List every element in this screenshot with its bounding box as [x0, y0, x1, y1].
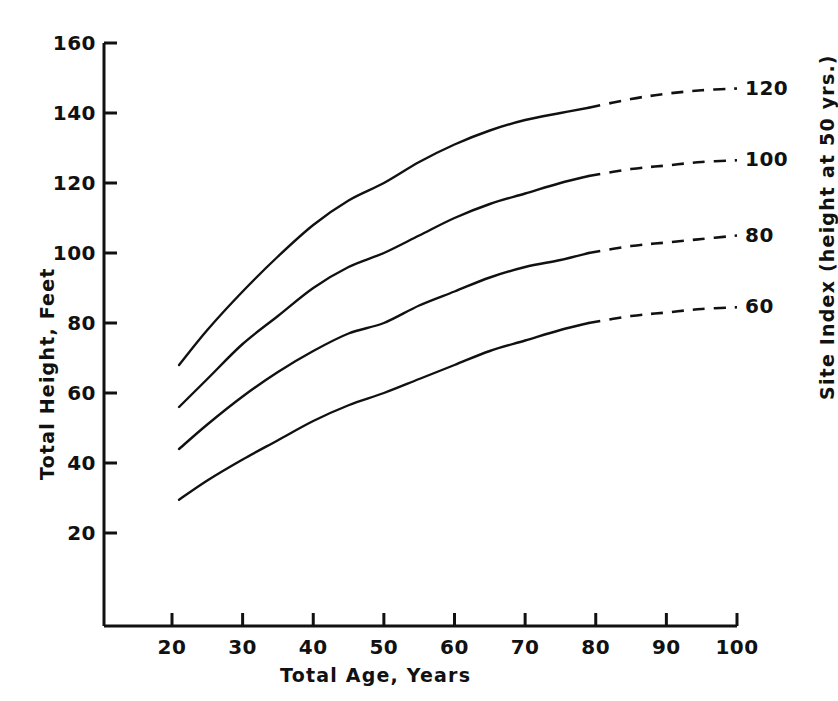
y-tick-label: 140 [30, 103, 96, 123]
x-tick-label: 20 [137, 637, 207, 657]
data-curves [179, 89, 737, 500]
curve-solid-120 [179, 108, 589, 365]
curve-solid-100 [179, 176, 589, 407]
x-tick-label: 40 [278, 637, 348, 657]
curve-solid-80 [179, 253, 589, 449]
curve-dashed-80 [589, 236, 737, 254]
x-tick-label: 100 [702, 637, 772, 657]
x-tick-label: 30 [208, 637, 278, 657]
series-label-60: 60 [745, 296, 774, 316]
y-tick-label: 20 [30, 523, 96, 543]
series-label-80: 80 [745, 225, 774, 245]
curve-dashed-100 [589, 160, 737, 176]
right-axis-title: Site Index (height at 50 yrs.) [818, 54, 837, 400]
x-tick-label: 80 [561, 637, 631, 657]
x-axis-ticks [172, 613, 737, 626]
y-axis-title: Total Height, Feet [38, 267, 57, 480]
x-tick-label: 50 [349, 637, 419, 657]
series-label-100: 100 [745, 149, 788, 169]
curve-dashed-60 [589, 307, 737, 323]
axis-lines [104, 43, 737, 626]
y-tick-label: 120 [30, 173, 96, 193]
x-tick-label: 70 [490, 637, 560, 657]
y-tick-label: 100 [30, 243, 96, 263]
series-label-120: 120 [745, 78, 788, 98]
y-tick-label: 160 [30, 33, 96, 53]
curve-dashed-120 [589, 89, 737, 108]
x-tick-label: 90 [631, 637, 701, 657]
curve-solid-60 [179, 323, 589, 500]
x-axis-title: Total Age, Years [280, 666, 471, 685]
y-axis-ticks [104, 43, 117, 533]
x-tick-label: 60 [420, 637, 490, 657]
